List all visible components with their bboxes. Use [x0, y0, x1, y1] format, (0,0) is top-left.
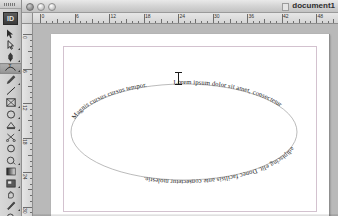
ruler-label: 12 — [22, 105, 27, 111]
ruler-tick-minor — [63, 21, 64, 24]
ruler-label: 6 — [22, 70, 27, 73]
ruler-tick-minor — [184, 21, 185, 24]
ruler-tick-minor — [264, 19, 265, 23]
page-right-edge — [329, 34, 330, 216]
tool-flyout-indicator — [18, 163, 20, 165]
ruler-label: 30 — [214, 13, 220, 19]
pen-tool[interactable] — [0, 51, 21, 63]
ruler-label: 24 — [22, 174, 27, 180]
zoom-tool[interactable] — [0, 212, 21, 216]
rectangle-frame-tool[interactable] — [0, 97, 21, 109]
ruler-tick-minor — [121, 21, 122, 24]
ruler-tick-minor — [28, 189, 32, 190]
note-tool[interactable] — [0, 178, 21, 190]
selection-tool[interactable] — [0, 28, 21, 40]
ruler-label: 0 — [22, 36, 27, 39]
ruler-tick-minor — [30, 57, 33, 58]
window-titlebar: document1 — [22, 0, 338, 13]
horizontal-ruler[interactable]: 0612182430364248 — [22, 13, 338, 24]
ruler-tick-minor — [218, 21, 219, 24]
ruler-tick-minor — [30, 201, 33, 202]
tool-flyout-indicator — [18, 83, 20, 85]
type-on-path-tool[interactable]: T — [0, 63, 21, 75]
ruler-tick-minor — [207, 21, 208, 24]
hand-tool[interactable] — [0, 189, 21, 201]
ruler-tick-minor — [236, 21, 237, 24]
ruler-tick-minor — [30, 109, 33, 110]
minimize-button[interactable] — [37, 3, 45, 11]
ruler-tick-minor — [86, 21, 87, 24]
pasteboard[interactable]: Lorem ipsum dolor sit amet, consectetur … — [33, 24, 338, 216]
ruler-tick-minor — [305, 21, 306, 24]
ruler-tick-minor — [103, 21, 104, 24]
ruler-tick-minor — [115, 21, 116, 24]
ruler-tick-minor — [224, 21, 225, 24]
ruler-tick-minor — [241, 21, 242, 24]
ruler-tick-minor — [30, 63, 33, 64]
ruler-tick-minor — [167, 21, 168, 24]
gradient-swatch-tool[interactable] — [0, 155, 21, 167]
indesign-logo-label: ID — [7, 15, 14, 22]
rectangle-tool[interactable] — [0, 109, 21, 121]
ruler-label: 42 — [283, 13, 289, 19]
line-tool[interactable] — [0, 86, 21, 98]
ruler-tick-minor — [132, 21, 133, 24]
ruler-tick-minor — [30, 166, 33, 167]
ruler-tick-minor — [28, 120, 32, 121]
window-title: document1 — [292, 1, 335, 10]
ruler-tick-minor — [299, 19, 300, 23]
ruler-tick-minor — [30, 132, 33, 133]
window-controls — [26, 3, 56, 11]
tools-panel: ID T — [0, 0, 22, 216]
ruler-tick-minor — [230, 19, 231, 23]
ruler-label: 24 — [180, 13, 186, 19]
ruler-label: 18 — [22, 139, 27, 145]
tool-flyout-indicator — [18, 48, 20, 50]
ruler-tick-minor — [28, 86, 32, 87]
ruler-tick-minor — [69, 21, 70, 24]
document-page[interactable] — [51, 34, 329, 216]
vertical-ruler[interactable]: 0612182430 — [22, 24, 33, 216]
close-button[interactable] — [26, 3, 34, 11]
scissors-tool[interactable] — [0, 132, 21, 144]
ruler-tick-minor — [333, 19, 334, 23]
gradient-feather-tool[interactable] — [0, 166, 21, 178]
ruler-tick-minor — [28, 155, 32, 156]
pencil-tool[interactable] — [0, 74, 21, 86]
direct-selection-tool[interactable] — [0, 40, 21, 52]
ruler-tick-minor — [259, 21, 260, 24]
ruler-tick-minor — [46, 21, 47, 24]
tool-flyout-indicator — [18, 70, 20, 72]
zoom-button[interactable] — [48, 3, 56, 11]
canvas-bottom-shadow — [33, 214, 338, 216]
ruler-tick-minor — [201, 21, 202, 24]
indesign-logo-button[interactable]: ID — [3, 12, 18, 25]
ruler-label: 48 — [318, 13, 324, 19]
tools-panel-drag-handle[interactable] — [0, 0, 21, 9]
ruler-origin-handle[interactable] — [22, 13, 33, 24]
rotate-tool[interactable] — [0, 120, 21, 132]
ruler-tick-minor — [57, 19, 58, 23]
ruler-tick-minor — [30, 195, 33, 196]
ruler-tick-minor — [322, 21, 323, 24]
eyedropper-tool[interactable] — [0, 201, 21, 213]
ruler-tick-minor — [98, 21, 99, 24]
ruler-tick-minor — [328, 21, 329, 24]
ruler-tick-minor — [30, 97, 33, 98]
ruler-tick-minor — [92, 19, 93, 23]
ruler-tick-minor — [30, 80, 33, 81]
ruler-tick-minor — [30, 149, 33, 150]
ruler-tick-minor — [30, 40, 33, 41]
ruler-tick-minor — [270, 21, 271, 24]
ruler-tick-minor — [293, 21, 294, 24]
ruler-tick-minor — [253, 21, 254, 24]
ruler-tick-minor — [80, 21, 81, 24]
ruler-tick-minor — [195, 19, 196, 23]
tool-flyout-indicator — [18, 129, 20, 131]
free-transform-tool[interactable] — [0, 143, 21, 155]
ruler-tick-minor — [287, 21, 288, 24]
margin-guides — [63, 46, 317, 212]
ruler-tick-minor — [28, 51, 32, 52]
ruler-tick-minor — [30, 161, 33, 162]
tool-list: T — [0, 28, 21, 216]
